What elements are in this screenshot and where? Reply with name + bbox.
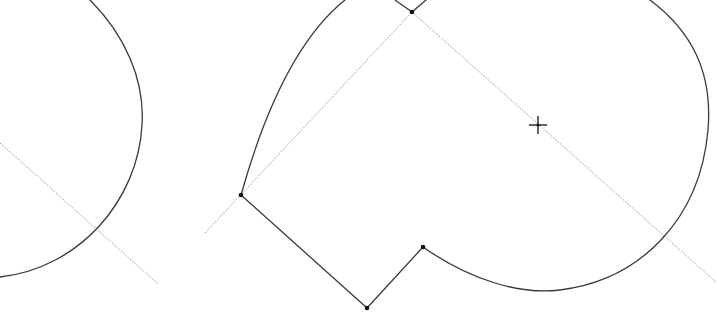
crosshair-center (536, 123, 539, 126)
vertex-notch[interactable] (421, 245, 426, 250)
drawing-canvas[interactable] (0, 0, 717, 319)
lower-zigzag-edges[interactable] (241, 195, 423, 308)
construction-line-diagonal-up (205, 12, 412, 233)
construction-line-diagonal-down (412, 12, 717, 283)
left-shape[interactable] (0, 0, 158, 284)
left-arc[interactable] (0, 0, 142, 277)
top-edge-right[interactable] (412, 0, 426, 12)
vertex-points[interactable] (239, 10, 426, 311)
vertex-left[interactable] (239, 193, 244, 198)
vertex-top[interactable] (410, 10, 415, 15)
top-edge-left[interactable] (395, 0, 412, 12)
main-shape[interactable] (205, 0, 717, 310)
vertex-bottom[interactable] (365, 306, 370, 311)
left-curve[interactable] (241, 0, 345, 195)
right-arc[interactable] (423, 0, 709, 291)
